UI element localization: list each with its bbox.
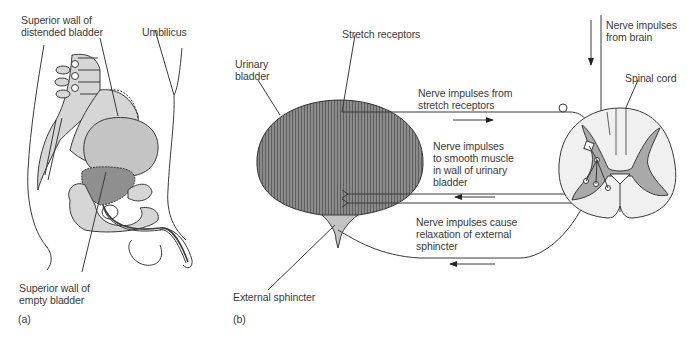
panel-b-marker: (b) xyxy=(233,313,246,325)
label-external-sphincter: External sphincter xyxy=(233,291,315,303)
label-superior-wall-empty: Superior wall of empty bladder xyxy=(19,282,90,306)
label-stretch-receptors: Stretch receptors xyxy=(342,28,420,40)
diagram-canvas xyxy=(0,0,699,338)
label-impulses-to-smooth-muscle: Nerve impulses to smooth muscle in wall … xyxy=(433,140,514,188)
label-umbilicus: Umbilicus xyxy=(142,26,187,38)
panel-a-sagittal-pelvis xyxy=(28,30,192,272)
label-spinal-cord: Spinal cord xyxy=(625,72,676,84)
label-nerve-impulses-from-brain: Nerve impulses from brain xyxy=(606,19,677,43)
label-impulses-from-stretch-receptors: Nerve impulses from stretch receptors xyxy=(418,87,512,111)
label-urinary-bladder: Urinary bladder xyxy=(235,58,269,82)
panel-a-marker: (a) xyxy=(18,313,31,325)
spinal-cord-cross-section xyxy=(559,108,676,218)
label-superior-wall-distended: Superior wall of distended bladder xyxy=(21,14,103,38)
label-impulses-relaxation-sphincter: Nerve impulses cause relaxation of exter… xyxy=(416,216,517,252)
